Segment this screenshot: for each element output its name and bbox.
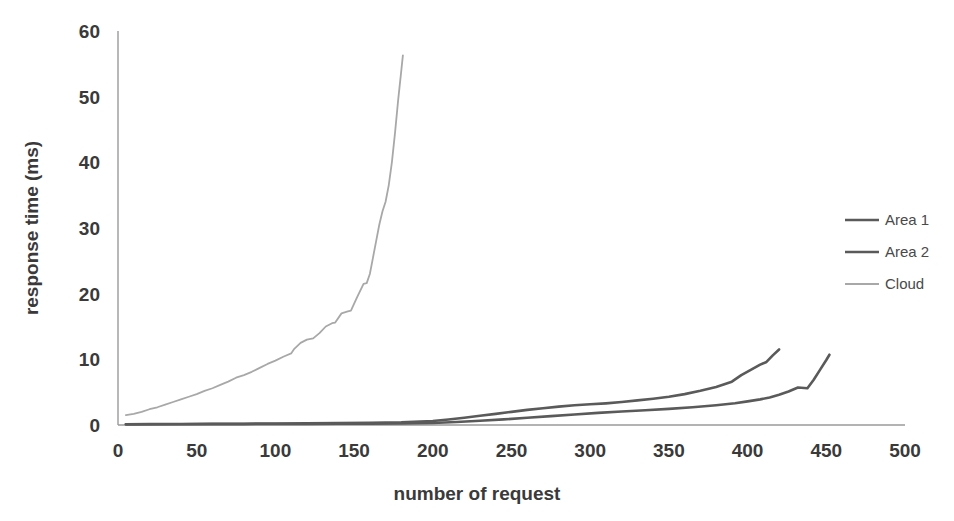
chart-container: 0102030405060 05010015020025030035040045… [0,0,954,521]
series-line-area-1 [126,349,779,424]
x-tick-label: 0 [113,440,124,461]
y-tick-label: 0 [89,415,100,436]
x-axis-tick-labels: 050100150200250300350400450500 [113,440,921,461]
y-tick-label: 30 [79,218,100,239]
x-tick-label: 200 [417,440,449,461]
series-lines [126,55,830,424]
y-axis-tick-labels: 0102030405060 [79,21,100,436]
x-tick-label: 50 [186,440,207,461]
legend-label-area-2: Area 2 [885,243,929,260]
x-tick-label: 250 [496,440,528,461]
legend-label-area-1: Area 1 [885,211,929,228]
x-tick-label: 100 [260,440,292,461]
y-tick-label: 40 [79,152,100,173]
x-tick-label: 450 [810,440,842,461]
series-line-area-2 [126,355,830,425]
series-line-cloud [126,55,403,415]
x-tick-label: 350 [653,440,685,461]
legend: Area 1Area 2Cloud [845,211,929,292]
y-tick-label: 60 [79,21,100,42]
y-tick-label: 10 [79,349,100,370]
x-axis-title: number of request [394,483,561,504]
legend-label-cloud: Cloud [885,275,924,292]
y-tick-label: 50 [79,87,100,108]
y-axis-title: response time (ms) [21,141,42,315]
x-tick-label: 400 [732,440,764,461]
y-tick-label: 20 [79,284,100,305]
x-tick-label: 500 [889,440,921,461]
x-tick-label: 300 [574,440,606,461]
line-chart: 0102030405060 05010015020025030035040045… [0,0,954,521]
x-tick-label: 150 [338,440,370,461]
